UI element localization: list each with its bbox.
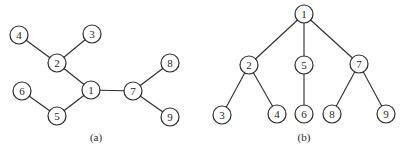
graph-a-node-label-5: 5	[54, 110, 60, 122]
graph-a-node-label-2: 2	[54, 57, 60, 69]
graph-b-node-label-4: 4	[274, 108, 280, 120]
tree-diagram-figure: 432861759(a)125734689(b)	[0, 0, 408, 155]
graph-b-node-label-9: 9	[383, 108, 389, 120]
graph-b-node-label-6: 6	[301, 108, 307, 120]
graph-b-caption: (b)	[298, 131, 311, 144]
graph-b-edge-1-2	[249, 14, 304, 65]
graph-a-node-label-1: 1	[88, 84, 94, 96]
graph-a-node-label-6: 6	[19, 85, 25, 97]
graph-b-node-label-1: 1	[301, 8, 307, 20]
graph-a-node-label-7: 7	[130, 85, 136, 97]
graph-a-node-label-3: 3	[89, 28, 95, 40]
graph-a-caption: (a)	[90, 131, 103, 144]
graph-a: 432861759(a)	[10, 25, 179, 144]
graph-b-node-label-2: 2	[246, 59, 252, 71]
graph-b-node-label-7: 7	[356, 58, 362, 70]
graph-b-node-label-3: 3	[219, 109, 225, 121]
graph-b-node-label-5: 5	[301, 59, 307, 71]
graph-a-node-label-9: 9	[167, 111, 173, 123]
graph-a-node-label-8: 8	[167, 57, 173, 69]
graph-b-node-label-8: 8	[329, 108, 335, 120]
graph-b: 125734689(b)	[213, 5, 395, 144]
graph-a-node-label-4: 4	[16, 29, 22, 41]
graph-b-edge-1-7	[304, 14, 359, 64]
figure-canvas: 432861759(a)125734689(b)	[0, 0, 408, 155]
